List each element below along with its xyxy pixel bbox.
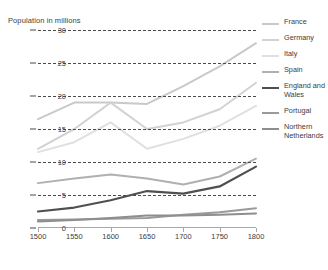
y-axis-title: Population in millions [8,16,81,25]
y-axis-tick-mark [30,195,36,196]
legend-item[interactable]: Spain [262,66,326,75]
x-axis-tick-label: 1800 [248,232,265,241]
legend-item[interactable]: Germany [262,34,326,43]
y-axis-tick-label: 0 [42,224,66,233]
x-axis-tick-label: 1600 [102,232,119,241]
legend-color-swatch [262,23,279,25]
x-axis-tick-label: 1700 [175,232,192,241]
y-axis-tick-mark [30,228,36,229]
y-axis-tick-mark [30,63,36,64]
legend-color-swatch [262,39,279,41]
legend-color-swatch [262,112,279,114]
y-axis-tick-label: 5 [42,191,66,200]
legend-item[interactable]: Italy [262,50,326,59]
x-axis-tick-label: 1550 [66,232,83,241]
series-line [38,167,256,212]
legend-item[interactable]: England and Wales [262,82,326,99]
legend-color-swatch [262,128,279,130]
legend-color-swatch [262,87,279,89]
gridline [38,96,256,97]
series-line [38,83,256,149]
y-axis-tick-label: 25 [42,59,66,68]
x-axis-tick-label: 1500 [30,232,47,241]
y-axis-tick-mark [30,96,36,97]
legend-item[interactable]: Northern Netherlands [262,123,326,140]
y-axis-tick-mark [30,30,36,31]
legend-item-label: Portugal [284,107,311,116]
legend-item-label: Germany [284,34,314,43]
gridline [38,30,256,31]
gridline [38,129,256,130]
x-axis-tick-label: 1750 [211,232,228,241]
legend-item[interactable]: France [262,18,326,27]
x-axis-tick-label: 1650 [139,232,156,241]
legend: FranceGermanyItalySpainEngland and Wales… [262,18,326,148]
gridline [38,63,256,64]
y-axis-tick-mark [30,162,36,163]
chart-screenshot: Population in millions 15001550160016501… [0,0,328,270]
legend-item-label: England and Wales [284,82,326,99]
plot-area: 1500155016001650170017501800 [38,30,256,228]
legend-item-label: France [284,18,307,27]
legend-item-label: Northern Netherlands [284,123,326,140]
y-axis-tick-label: 10 [42,158,66,167]
gridline [38,195,256,196]
legend-item[interactable]: Portugal [262,107,326,116]
y-axis-tick-label: 15 [42,125,66,134]
legend-color-swatch [262,71,279,73]
gridline [38,162,256,163]
y-axis-tick-mark [30,129,36,130]
legend-item-label: Spain [284,66,303,75]
legend-color-swatch [262,55,279,57]
legend-item-label: Italy [284,50,297,59]
y-axis-tick-label: 30 [42,26,66,35]
y-axis-tick-label: 20 [42,92,66,101]
